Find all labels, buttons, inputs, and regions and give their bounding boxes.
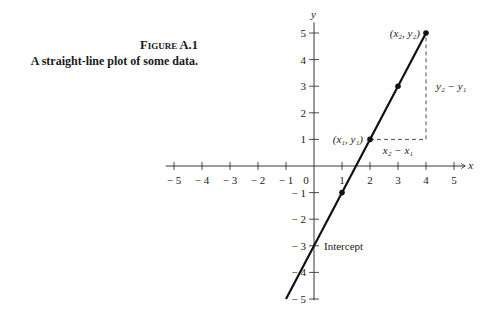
x-tick-label: 0: [303, 174, 309, 186]
x-tick-label: 2: [367, 174, 373, 186]
y-tick-label: − 1: [292, 187, 306, 199]
y-tick-label: − 2: [292, 213, 306, 225]
x-tick-label: 3: [395, 174, 401, 186]
x-axis-label: x: [467, 159, 473, 171]
point-label-p1: (x₁, y₁): [333, 133, 364, 146]
x-tick-label: − 4: [195, 174, 210, 186]
x-tick-label: − 1: [279, 174, 293, 186]
dy-label: y₂ − y₁: [435, 80, 467, 92]
x-tick-label: − 3: [223, 174, 238, 186]
y-tick-label: − 3: [292, 240, 307, 252]
y-tick-label: 4: [301, 54, 307, 66]
data-point: [423, 30, 429, 36]
dx-label: x₂ − x₁: [382, 144, 414, 156]
x-tick-label: − 5: [167, 174, 182, 186]
x-tick-label: 5: [451, 174, 457, 186]
y-tick-label: 3: [301, 80, 307, 92]
y-axis-label: y: [310, 8, 316, 20]
data-point: [367, 137, 373, 143]
y-tick-label: 1: [301, 133, 307, 145]
y-tick-label: 2: [301, 107, 307, 119]
line-chart: xy− 5− 4− 3− 2− 1012345− 5− 4− 3− 2− 112…: [0, 0, 490, 323]
x-tick-label: 1: [339, 174, 345, 186]
y-tick-label: − 5: [292, 293, 307, 305]
data-point: [339, 190, 345, 196]
y-tick-label: 5: [301, 27, 307, 39]
intercept-label: Intercept: [324, 240, 363, 252]
x-tick-label: − 2: [251, 174, 265, 186]
x-tick-label: 4: [423, 174, 429, 186]
data-point: [395, 83, 401, 89]
point-label-p2: (x₂, y₂): [390, 27, 421, 40]
